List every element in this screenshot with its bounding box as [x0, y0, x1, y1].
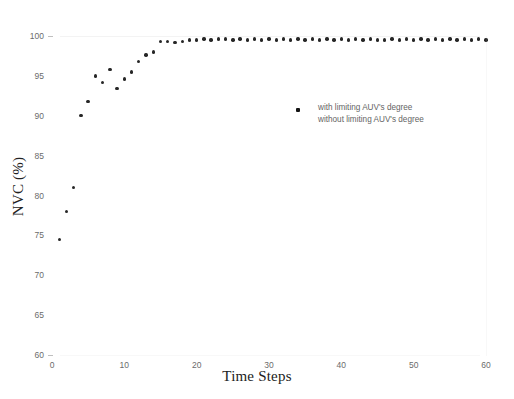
data-point: [108, 68, 111, 71]
data-point: [94, 74, 97, 77]
data-point: [282, 37, 285, 40]
data-point: [419, 37, 422, 40]
data-point: [253, 37, 256, 40]
data-point: [311, 37, 314, 40]
data-point: [398, 38, 401, 41]
x-tick-label: 30: [256, 360, 282, 370]
data-point: [58, 238, 61, 241]
data-point: [217, 37, 220, 40]
x-tick-label: 60: [473, 360, 499, 370]
y-tick-mark: [48, 36, 53, 37]
data-point: [238, 37, 241, 40]
legend-entry-1: with limiting AUV's degree: [318, 103, 412, 112]
data-point: [303, 38, 306, 41]
x-axis-title: Time Steps: [0, 368, 514, 385]
data-point: [123, 77, 126, 80]
data-point: [455, 38, 458, 41]
data-point: [79, 114, 82, 117]
data-point: [195, 38, 198, 41]
data-point: [369, 37, 372, 40]
data-point: [188, 38, 191, 41]
data-point: [434, 37, 437, 40]
y-tick-label: 85: [18, 151, 44, 161]
data-point: [144, 53, 147, 56]
y-tick-label: 65: [18, 310, 44, 320]
data-point: [361, 38, 364, 41]
data-point: [209, 38, 212, 41]
data-point: [332, 38, 335, 41]
data-point: [296, 37, 299, 40]
y-tick-mark: [48, 355, 53, 356]
data-point: [426, 38, 429, 41]
x-tick-label: 10: [111, 360, 137, 370]
data-point: [477, 37, 480, 40]
legend-entry-2: without limiting AUV's degree: [318, 115, 424, 124]
y-tick-label: 75: [18, 230, 44, 240]
scan-artifact: [486, 36, 487, 356]
data-point: [463, 37, 466, 40]
data-point: [224, 37, 227, 40]
data-point: [412, 38, 415, 41]
data-point: [347, 38, 350, 41]
data-point: [441, 38, 444, 41]
data-point: [115, 87, 118, 90]
y-tick-label: 95: [18, 71, 44, 81]
scan-artifact: [60, 36, 480, 37]
x-tick-label: 0: [39, 360, 65, 370]
data-point: [101, 81, 104, 84]
data-point: [181, 40, 184, 43]
data-point: [246, 38, 249, 41]
data-point: [137, 60, 140, 63]
y-tick-label: 100: [18, 31, 44, 41]
data-point: [159, 40, 162, 43]
data-point: [86, 100, 89, 103]
data-point: [72, 186, 75, 189]
y-axis-title: NVC (%): [10, 127, 27, 247]
scan-artifact: [60, 355, 480, 356]
x-tick-label: 20: [184, 360, 210, 370]
y-tick-label: 80: [18, 191, 44, 201]
data-point: [65, 210, 68, 213]
data-point: [390, 37, 393, 40]
data-point: [383, 38, 386, 41]
data-point: [173, 41, 176, 44]
data-point: [340, 37, 343, 40]
x-tick-label: 40: [328, 360, 354, 370]
data-point: [202, 37, 205, 40]
data-point: [448, 37, 451, 40]
scatter-chart: NVC (%) Time Steps 6065707580859095100 0…: [0, 0, 514, 399]
data-point: [470, 38, 473, 41]
data-point: [231, 38, 234, 41]
y-tick-label: 70: [18, 270, 44, 280]
legend-marker-icon: [296, 108, 300, 112]
data-point: [325, 37, 328, 40]
data-point: [166, 40, 169, 43]
data-point: [275, 38, 278, 41]
data-point: [260, 38, 263, 41]
data-point: [152, 50, 155, 53]
data-point: [267, 37, 270, 40]
x-tick-label: 50: [401, 360, 427, 370]
y-tick-label: 90: [18, 111, 44, 121]
data-point: [318, 38, 321, 41]
data-point: [130, 70, 133, 73]
y-tick-label: 60: [18, 350, 44, 360]
data-point: [405, 37, 408, 40]
data-point: [376, 38, 379, 41]
data-point: [354, 37, 357, 40]
data-point: [289, 38, 292, 41]
